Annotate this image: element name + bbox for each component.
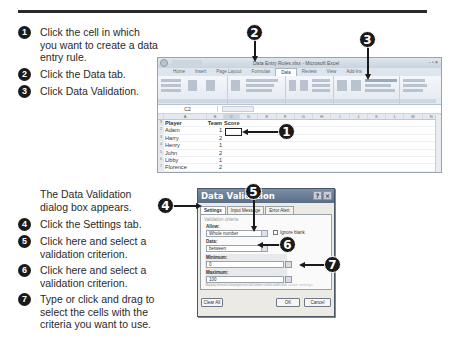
column-header[interactable]: F [277, 114, 295, 119]
cell[interactable]: 1 [207, 142, 224, 148]
ungroup-button[interactable] [403, 84, 427, 87]
column-header[interactable]: J [350, 114, 368, 119]
cell[interactable]: 2 [207, 164, 224, 170]
dialog-tabs: Settings Input Message Error Alert [198, 203, 334, 214]
column-header[interactable]: C [224, 114, 240, 119]
ribbon-group-get-external-data [158, 76, 228, 104]
cell[interactable]: Score [224, 120, 240, 126]
cell[interactable]: 2 [207, 150, 224, 156]
group-button[interactable] [403, 79, 425, 82]
cell[interactable] [224, 172, 240, 173]
ignore-blank-checkbox[interactable]: Ignore blank [273, 230, 305, 235]
tab-page-layout[interactable]: Page Layout [211, 68, 246, 76]
ribbon-group-connections [228, 76, 286, 104]
column-header[interactable]: H [313, 114, 331, 119]
cell[interactable]: Mary [164, 172, 207, 173]
tab-settings[interactable]: Settings [200, 206, 226, 214]
cell[interactable]: Harry [164, 135, 207, 141]
tab-add-ins[interactable]: Add-Ins [341, 68, 367, 76]
column-header[interactable]: B [207, 114, 224, 119]
step-number-badge: 6 [18, 264, 31, 277]
cell[interactable] [224, 157, 240, 163]
cell[interactable]: John [164, 150, 207, 156]
callout-1-arrow [247, 131, 280, 133]
vertical-scrollbar[interactable] [435, 115, 441, 173]
cell[interactable]: Player [164, 120, 207, 126]
column-header[interactable]: E [258, 114, 276, 119]
column-header[interactable]: A [164, 114, 207, 119]
step-text: Click Data Validation. [40, 85, 139, 98]
cancel-button[interactable]: Cancel [304, 298, 331, 307]
cell[interactable]: Adam [164, 127, 207, 133]
checkbox-box[interactable] [273, 230, 278, 235]
remove-duplicates-button[interactable] [351, 80, 361, 91]
close-button[interactable]: × [323, 191, 332, 200]
callout-1: 1 [278, 123, 295, 140]
ribbon-group-sort-filter [286, 76, 334, 104]
tab-home[interactable]: Home [168, 68, 190, 76]
callout-7: 7 [324, 256, 341, 273]
tab-review[interactable]: Review [297, 68, 322, 76]
help-button[interactable]: ? [313, 191, 322, 200]
name-box[interactable]: C2 [158, 106, 218, 112]
tab-data[interactable]: Data [275, 68, 297, 76]
tab-input-message[interactable]: Input Message [227, 206, 265, 214]
apply-to-all-checkbox[interactable]: Apply these changes to all other cells w… [206, 282, 313, 287]
tab-view[interactable]: View [322, 68, 342, 76]
cell[interactable]: Henry [164, 142, 207, 148]
column-header[interactable]: D [240, 114, 258, 119]
cell[interactable]: Florence [164, 164, 207, 170]
clear-all-button[interactable]: Clear All [201, 298, 223, 307]
table-row: 8 Mary 1 [158, 172, 441, 173]
cell[interactable]: Libby [164, 157, 207, 163]
maximum-label: Maximum: [206, 270, 228, 275]
chevron-down-icon[interactable] [261, 231, 267, 236]
subtotal-button[interactable] [403, 89, 423, 92]
cell[interactable]: 1 [207, 172, 224, 173]
allow-label: Allow: [206, 224, 220, 229]
step-text: Click the cell in which you want to crea… [40, 26, 158, 64]
step-number-badge: 5 [18, 235, 31, 248]
quick-access-toolbar[interactable] [172, 60, 202, 65]
data-validation-dialog: Data Validation ? × Settings Input Messa… [197, 188, 335, 317]
callout-6: 6 [279, 236, 296, 253]
callout-4: 4 [157, 197, 174, 214]
callout-5: 5 [245, 183, 262, 200]
table-row: 6 Libby 1 [158, 157, 441, 164]
tab-error-alert[interactable]: Error Alert [265, 206, 293, 214]
cell[interactable]: 2 [207, 135, 224, 141]
cell-selection-outline [225, 128, 242, 136]
window-controls[interactable]: - ▫ × [429, 59, 438, 65]
minimum-value: 0 [209, 262, 212, 267]
allow-dropdown[interactable]: Whole number [206, 230, 268, 237]
cell[interactable]: Team [207, 120, 224, 126]
step-2: 2 Click the Data tab. [18, 68, 158, 81]
column-header[interactable]: M [404, 114, 422, 119]
column-header[interactable]: L [386, 114, 404, 119]
ok-button[interactable]: OK [276, 298, 300, 307]
formula-bar: C2 [158, 105, 441, 114]
minimum-input[interactable]: 0 [206, 261, 284, 268]
consolidate-button[interactable] [365, 84, 391, 87]
cell[interactable]: 1 [207, 127, 224, 133]
cell[interactable] [224, 142, 240, 148]
step-number-badge: 4 [18, 218, 31, 231]
column-header[interactable]: I [331, 114, 349, 119]
cell[interactable]: 1 [207, 157, 224, 163]
step-4: 4 Click the Settings tab. [18, 218, 158, 231]
cell[interactable] [224, 164, 240, 170]
sort-button[interactable] [289, 80, 296, 91]
tab-formulas[interactable]: Formulas [247, 68, 276, 76]
filter-button[interactable] [300, 80, 308, 91]
tab-insert[interactable]: Insert [190, 68, 211, 76]
range-picker-icon[interactable] [285, 261, 292, 268]
cell[interactable] [224, 150, 240, 156]
step-5: 5 Click here and select a validation cri… [18, 235, 158, 260]
formula-input[interactable] [222, 106, 254, 112]
text-to-columns-button[interactable] [337, 80, 347, 91]
what-if-analysis-button[interactable] [365, 89, 395, 92]
column-header[interactable]: K [368, 114, 386, 119]
steps-top: 1 Click the cell in which you want to cr… [18, 26, 158, 102]
office-button[interactable] [160, 59, 168, 67]
column-header[interactable]: G [295, 114, 313, 119]
